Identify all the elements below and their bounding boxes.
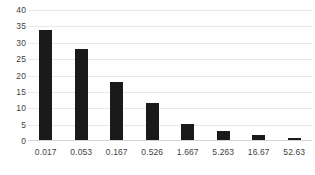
bar [110, 82, 123, 141]
y-axis-tick-label: 10 [2, 104, 26, 113]
bar [75, 49, 88, 141]
x-axis-line [28, 140, 312, 141]
y-axis-tick-label: 25 [2, 55, 26, 64]
plot-area [28, 10, 312, 141]
bar [39, 30, 52, 141]
bar [146, 103, 159, 141]
y-axis-tick-label: 15 [2, 88, 26, 97]
y-axis-tick-label: 40 [2, 6, 26, 15]
bars-layer [28, 10, 312, 141]
y-axis-tick-label: 5 [2, 121, 26, 130]
y-axis-tick-label: 20 [2, 72, 26, 81]
y-axis-tick-label: 0 [2, 137, 26, 146]
bar-chart: 05101520253035400.0170.0530.1670.5261.66… [0, 0, 315, 175]
y-axis-tick-label: 35 [2, 22, 26, 31]
x-axis-tick-label: 52.63 [272, 148, 315, 157]
y-axis-tick-label: 30 [2, 39, 26, 48]
bar [181, 124, 194, 141]
